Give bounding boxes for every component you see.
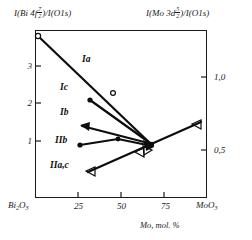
left-axis-title: I(Bi 4f72)/I(O1s) — [14, 6, 71, 19]
x-tick-25: 25 — [74, 201, 83, 211]
y-left-tick-2: 2 — [18, 98, 32, 108]
x-tick-75: 75 — [161, 201, 170, 211]
left-axis-title-p2: )/I(O1s) — [42, 8, 71, 18]
x-end-label: MoO3 — [196, 200, 218, 211]
y-right-tick-1-0: 1,0 — [214, 72, 225, 82]
y-left-tick-3: 3 — [18, 61, 32, 71]
y-left-tick-1: 1 — [18, 136, 32, 146]
curve-label-IIb: IIb — [55, 135, 67, 145]
y-right-tick-0-5: 0,5 — [214, 145, 225, 155]
x-tick-50: 50 — [117, 201, 126, 211]
right-axis-title-species: Mo 3d — [152, 8, 175, 18]
left-axis-title-species: Bi 4f — [20, 8, 37, 18]
right-axis-title: I(Mo 3d52)/I(O1s) — [146, 6, 209, 19]
right-axis-title-p2: )/I(O1s) — [180, 8, 209, 18]
curve-label-Ib: Ib — [60, 107, 68, 117]
curve-label-Ia: Ia — [82, 54, 90, 64]
curve-label-Ic: Ic — [60, 82, 68, 92]
x-axis-units-label: Mo, mol. % — [140, 220, 180, 230]
x-start-label: Bi2O3 — [8, 200, 29, 211]
curve-label-IIa-c: IIa,c — [50, 160, 69, 170]
chart-root: I(Bi 4f72)/I(O1s) I(Mo 3d52)/I(O1s) 3 2 … — [0, 0, 252, 240]
